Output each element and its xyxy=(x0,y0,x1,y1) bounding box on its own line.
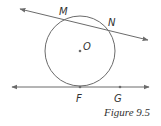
label-n: N xyxy=(108,17,116,28)
label-f: F xyxy=(76,93,82,104)
point-f xyxy=(79,86,82,89)
secant-line-mn xyxy=(20,9,148,40)
geometry-figure: M N O F G Figure 9.5 xyxy=(0,0,161,126)
center-point-o xyxy=(79,50,82,53)
label-o: O xyxy=(83,41,91,52)
figure-caption: Figure 9.5 xyxy=(103,106,151,118)
label-m: M xyxy=(59,6,68,17)
label-g: G xyxy=(114,93,122,104)
point-g xyxy=(119,86,122,89)
